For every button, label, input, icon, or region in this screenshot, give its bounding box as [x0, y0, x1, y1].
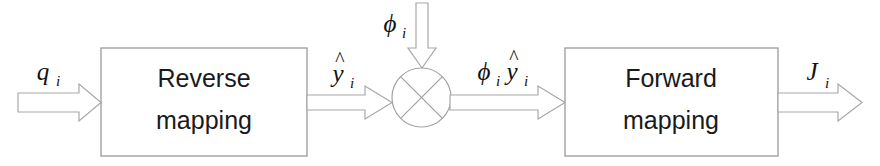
block-reverse-mapping[interactable]: Reverse mapping — [101, 48, 307, 156]
reverse-mapping-label-line2: mapping — [156, 106, 252, 134]
label-J-base: J — [806, 58, 819, 85]
forward-mapping-label-line2: mapping — [623, 106, 719, 134]
arrow-multiplier-to-forward — [450, 86, 565, 119]
label-scaled-phi-base: ϕ — [478, 58, 491, 85]
label-q-subscript: i — [56, 73, 60, 89]
label-J-subscript: i — [825, 75, 829, 91]
diagram-canvas: Reverse mapping Forward mapping — [0, 0, 880, 166]
label-phi-i: ϕ i — [384, 10, 407, 41]
label-yhat-i: y ^ i — [329, 48, 354, 91]
label-J-i: J i — [806, 58, 829, 91]
label-yhat-subscript: i — [350, 75, 354, 91]
arrow-shape-output — [778, 84, 862, 121]
label-phi-yhat-i: ϕ i y ^ i — [478, 46, 529, 89]
arrow-shape-input — [18, 84, 101, 121]
multiplier-node[interactable] — [392, 68, 451, 127]
label-phi-base: ϕ — [384, 10, 397, 37]
block-diagram: Reverse mapping Forward mapping — [0, 0, 880, 166]
gain-input-arrow-phi — [408, 3, 436, 68]
label-scaled-yhat-subscript: i — [524, 73, 528, 89]
input-arrow-qi — [18, 84, 101, 121]
label-q-base: q — [37, 58, 50, 85]
arrow-shape-phi-yhat — [450, 86, 565, 119]
arrow-shape-phi — [408, 3, 436, 68]
block-forward-mapping[interactable]: Forward mapping — [565, 48, 778, 156]
label-scaled-phi-subscript: i — [496, 73, 500, 89]
output-arrow-ji — [778, 84, 862, 121]
reverse-mapping-label-line1: Reverse — [157, 64, 250, 92]
forward-mapping-label-line1: Forward — [625, 64, 717, 92]
label-phi-subscript: i — [402, 25, 406, 41]
label-q-i: q i — [37, 58, 60, 89]
